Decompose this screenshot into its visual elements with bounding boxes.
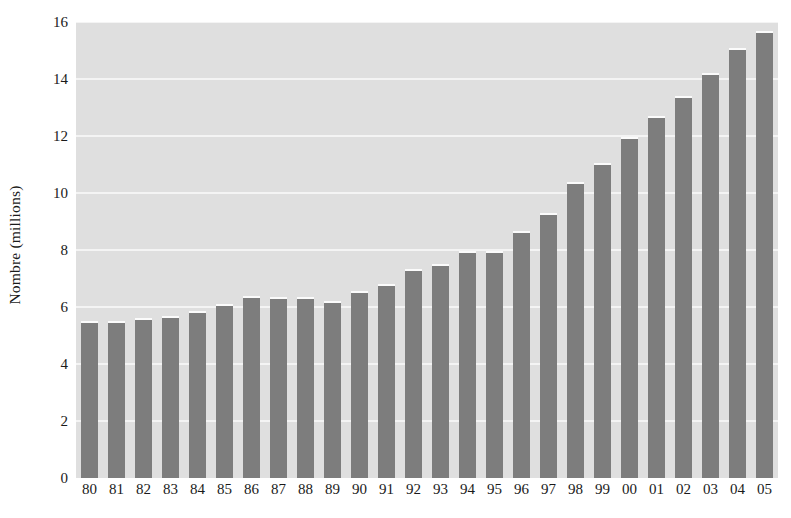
bar [540,213,558,478]
bar [108,321,126,478]
x-tick-label: 81 [109,481,124,498]
bar-chart: Nombre (millions) 0246810121416 80818283… [0,0,791,518]
x-tick-label: 83 [163,481,178,498]
y-tick-label: 14 [53,71,68,88]
bar [135,318,153,478]
bar [594,163,612,478]
gridline [76,420,778,422]
x-tick-label: 96 [514,481,529,498]
y-tick-label: 0 [61,470,69,487]
bar [648,116,666,478]
bar [378,284,396,478]
y-tick-label: 8 [61,242,69,259]
y-tick-label: 4 [61,356,69,373]
y-tick-label: 2 [61,413,69,430]
gridline [76,249,778,251]
x-tick-label: 01 [649,481,664,498]
x-tick-label: 82 [136,481,151,498]
gridline [76,363,778,365]
gridline [76,135,778,137]
gridline [76,78,778,80]
x-tick-label: 84 [190,481,205,498]
bar [702,73,720,478]
bar [162,316,180,478]
x-tick-label: 94 [460,481,475,498]
bar [756,31,774,478]
bar [270,297,288,478]
x-tick-label: 02 [676,481,691,498]
x-tick-label: 95 [487,481,502,498]
x-tick-label: 00 [622,481,637,498]
y-tick-label: 16 [53,14,68,31]
bar [81,321,99,478]
x-tick-label: 89 [325,481,340,498]
y-axis-title: Nombre (millions) [0,0,30,490]
bar [675,96,693,478]
bar [324,301,342,478]
x-axis-tick-labels: 8081828384858687888990919293949596979899… [76,481,778,511]
gridline [76,22,778,23]
bar [513,231,531,478]
x-tick-label: 99 [595,481,610,498]
gridline [76,192,778,194]
y-tick-label: 10 [53,185,68,202]
bar [729,48,747,478]
y-axis-title-text: Nombre (millions) [6,185,24,304]
x-tick-label: 98 [568,481,583,498]
gridline [76,306,778,308]
bar [405,269,423,478]
bar [243,296,261,478]
bar [459,251,477,478]
bar [189,311,207,478]
x-tick-label: 87 [271,481,286,498]
x-tick-label: 04 [730,481,745,498]
y-tick-label: 12 [53,128,68,145]
bar [351,291,369,478]
x-tick-label: 05 [757,481,772,498]
bar [486,251,504,478]
bar [297,297,315,478]
x-tick-label: 93 [433,481,448,498]
plot-area [76,22,778,478]
y-axis-tick-labels: 0246810121416 [30,0,75,490]
x-tick-label: 92 [406,481,421,498]
x-tick-label: 97 [541,481,556,498]
bar [567,182,585,478]
bar [432,264,450,478]
x-tick-label: 80 [82,481,97,498]
x-tick-label: 85 [217,481,232,498]
x-tick-label: 88 [298,481,313,498]
bar [621,137,639,478]
x-tick-label: 03 [703,481,718,498]
x-tick-label: 90 [352,481,367,498]
y-tick-label: 6 [61,299,69,316]
x-tick-label: 86 [244,481,259,498]
x-tick-label: 91 [379,481,394,498]
bar [216,304,234,478]
